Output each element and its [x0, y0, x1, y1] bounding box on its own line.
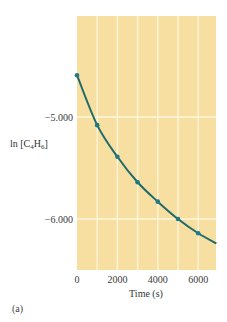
x-tick-label: 6000: [188, 274, 208, 285]
data-point: [156, 199, 161, 204]
data-point: [176, 217, 181, 222]
x-tick-label: 0: [75, 274, 80, 285]
data-point: [115, 154, 120, 159]
x-axis-ticks: 0200040006000: [75, 274, 209, 285]
data-point: [196, 231, 201, 236]
y-tick-label: −5.000: [45, 112, 73, 123]
y-axis-ticks: −5.000−6.000: [45, 112, 73, 225]
panel-label: (a): [12, 303, 23, 314]
x-axis-label: Time (s): [129, 288, 163, 300]
x-tick-label: 4000: [148, 274, 168, 285]
data-point: [135, 180, 140, 185]
data-point: [95, 123, 100, 128]
y-tick-label: −6.000: [45, 214, 73, 225]
data-point: [75, 73, 80, 78]
y-axis-label: ln [C4H6]: [10, 138, 48, 151]
chart: −5.000−6.000 0200040006000 ln [C4H6] Tim…: [0, 0, 227, 322]
x-tick-label: 2000: [107, 274, 127, 285]
